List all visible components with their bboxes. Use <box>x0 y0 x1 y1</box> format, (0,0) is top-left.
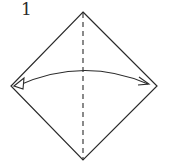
origami-diagram <box>0 0 172 167</box>
paper-outline <box>11 12 157 160</box>
